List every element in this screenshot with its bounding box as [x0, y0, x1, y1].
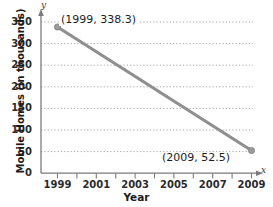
- xtick-label-2001: 2001: [76, 180, 116, 190]
- y-axis-arrow: [38, 9, 44, 16]
- xtick-label-2007: 2007: [193, 180, 233, 190]
- data-line-segment: [58, 27, 252, 151]
- data-point-label-1999: (1999, 338.3): [59, 14, 138, 26]
- x-axis-title: Year: [0, 191, 273, 203]
- x-axis-variable-label: x: [261, 165, 266, 175]
- xtick-label-2003: 2003: [115, 180, 155, 190]
- y-axis-variable-label: y: [41, 0, 46, 10]
- data-point-label-2009: (2009, 52.5): [160, 152, 232, 164]
- xtick-label-1999: 1999: [38, 180, 78, 190]
- chart-canvas: [0, 0, 273, 207]
- y-axis: [38, 9, 44, 173]
- xtick-label-2009: 2009: [232, 180, 272, 190]
- xtick-label-2005: 2005: [154, 180, 194, 190]
- y-axis-title: Mobile Homes (in thousands): [15, 14, 26, 174]
- data-series-mobile-homes: [54, 24, 254, 154]
- x-axis-ticks: [58, 173, 252, 178]
- data-point-2009: [248, 147, 254, 153]
- chart-container: 350 300 250 200 150 100 50 0 1999 2001 2…: [0, 0, 273, 207]
- x-axis: [41, 170, 263, 176]
